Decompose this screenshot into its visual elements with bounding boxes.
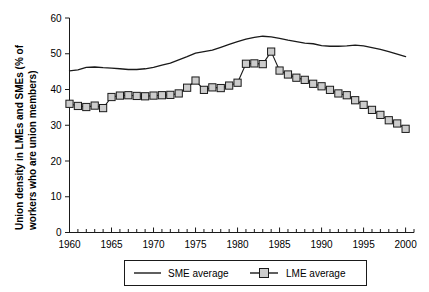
- data-point-marker-lme: [125, 92, 132, 99]
- data-point-marker-lme: [192, 77, 199, 84]
- data-point-marker-lme: [217, 84, 224, 91]
- data-point-marker-lme: [158, 92, 165, 99]
- data-point-marker-lme: [167, 91, 174, 98]
- data-point-marker-lme: [251, 60, 258, 67]
- x-tick-label: 1975: [184, 239, 207, 250]
- data-point-marker-lme: [377, 111, 384, 118]
- data-point-marker-lme: [259, 61, 266, 68]
- y-axis-title-line2: workers who are union members): [27, 71, 38, 232]
- y-tick-label: 40: [50, 84, 62, 95]
- data-point-marker-lme: [242, 60, 249, 67]
- legend-label-sme-average: SME average: [168, 268, 229, 279]
- data-point-marker-lme: [66, 100, 73, 107]
- data-point-marker-lme: [108, 93, 115, 100]
- data-point-marker-lme: [368, 106, 375, 113]
- x-tick-label: 1990: [310, 239, 333, 250]
- legend-swatch-lme-square-icon: [260, 269, 269, 278]
- y-tick-label: 10: [50, 191, 62, 202]
- data-point-marker-lme: [200, 86, 207, 93]
- data-point-marker-lme: [394, 120, 401, 127]
- y-tick-label: 20: [50, 156, 62, 167]
- data-point-marker-lme: [91, 102, 98, 109]
- y-tick-label: 0: [56, 227, 62, 238]
- data-point-marker-lme: [326, 86, 333, 93]
- data-point-marker-lme: [184, 84, 191, 91]
- data-point-marker-lme: [234, 79, 241, 86]
- data-point-marker-lme: [352, 97, 359, 104]
- data-point-marker-lme: [402, 125, 409, 132]
- data-point-marker-lme: [335, 90, 342, 97]
- data-point-marker-lme: [318, 83, 325, 90]
- data-point-marker-lme: [133, 92, 140, 99]
- y-tick-label: 30: [50, 120, 62, 131]
- data-point-marker-lme: [284, 71, 291, 78]
- union-density-line-chart: Union density in LMEs and SMEs (% of wor…: [0, 0, 429, 292]
- data-point-marker-lme: [116, 92, 123, 99]
- data-point-marker-lme: [310, 80, 317, 87]
- legend-label-lme-average: LME average: [286, 268, 346, 279]
- data-point-marker-lme: [301, 76, 308, 83]
- data-point-marker-lme: [150, 92, 157, 99]
- x-tick-label: 1980: [226, 239, 249, 250]
- x-tick-label: 2000: [394, 239, 417, 250]
- y-axis-title-line1: Union density in LMEs and SMEs (% of: [14, 44, 25, 230]
- x-tick-label: 1970: [142, 239, 165, 250]
- y-tick-label: 60: [50, 13, 62, 24]
- x-tick-label: 1965: [100, 239, 123, 250]
- data-point-marker-lme: [360, 101, 367, 108]
- y-tick-label: 50: [50, 48, 62, 59]
- data-point-marker-lme: [142, 93, 149, 100]
- data-point-marker-lme: [226, 82, 233, 89]
- data-point-marker-lme: [83, 103, 90, 110]
- data-point-marker-lme: [385, 117, 392, 124]
- data-point-marker-lme: [175, 90, 182, 97]
- chart-container: Union density in LMEs and SMEs (% of wor…: [0, 0, 429, 292]
- data-point-marker-lme: [276, 67, 283, 74]
- data-point-marker-lme: [74, 102, 81, 109]
- chart-legend: SME average LME average: [125, 261, 367, 286]
- x-tick-label: 1985: [268, 239, 291, 250]
- data-point-marker-lme: [268, 48, 275, 55]
- x-tick-label: 1960: [58, 239, 81, 250]
- data-point-marker-lme: [293, 74, 300, 81]
- data-point-marker-lme: [100, 104, 107, 111]
- data-point-marker-lme: [209, 84, 216, 91]
- data-point-marker-lme: [343, 92, 350, 99]
- x-tick-label: 1995: [352, 239, 375, 250]
